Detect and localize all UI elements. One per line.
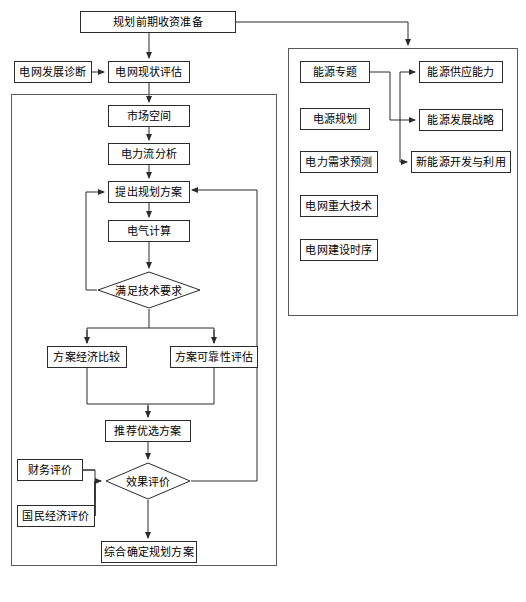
node-econ-compare-label: 方案经济比较 (53, 352, 120, 363)
node-energy-development-strategy[interactable]: 能源发展战略 (419, 109, 503, 131)
node-market-space[interactable]: 市场空间 (108, 105, 190, 127)
node-diagnosis-label: 电网发展诊断 (19, 67, 86, 78)
node-dev-strategy-label: 能源发展战略 (427, 115, 494, 126)
node-economic-comparison[interactable]: 方案经济比较 (47, 346, 127, 368)
node-major-grid-technology[interactable]: 电网重大技术 (300, 195, 378, 217)
node-new-energy-development[interactable]: 新能源开发与利用 (411, 151, 511, 173)
node-demand-forecast-label: 电力需求预测 (305, 157, 372, 168)
node-financial-label: 财务评价 (28, 465, 73, 476)
node-final-plan-label: 综合确定规划方案 (104, 547, 194, 558)
node-grid-development-diagnosis[interactable]: 电网发展诊断 (14, 61, 92, 83)
edge-prep-to-right-panel (236, 22, 408, 45)
node-new-energy-label: 新能源开发与利用 (416, 157, 506, 168)
node-prep-label: 规划前期收资准备 (113, 17, 203, 28)
node-power-source-plan-label: 电源规划 (313, 114, 358, 125)
node-effect-eval-label: 效果评价 (126, 473, 171, 489)
node-demand-forecast[interactable]: 电力需求预测 (300, 151, 378, 173)
node-technical-requirement-check[interactable]: 满足技术要求 (97, 271, 201, 309)
node-national-economic-evaluation[interactable]: 国民经济评价 (17, 505, 95, 527)
node-power-flow-analysis[interactable]: 电力流分析 (108, 143, 190, 165)
flowchart-canvas: 规划前期收资准备 电网发展诊断 电网现状评估 市场空间 电力流分析 提出规划方案… (0, 0, 526, 602)
node-electrical-calculation[interactable]: 电气计算 (108, 220, 190, 242)
node-recommended-plan[interactable]: 推荐优选方案 (105, 420, 191, 442)
node-status-eval-label: 电网现状评估 (115, 67, 182, 78)
node-recommend-label: 推荐优选方案 (114, 426, 181, 437)
node-electrical-calc-label: 电气计算 (127, 226, 172, 237)
node-build-schedule-label: 电网建设时序 (305, 245, 372, 256)
node-national-econ-label: 国民经济评价 (22, 511, 89, 522)
node-final-plan[interactable]: 综合确定规划方案 (101, 541, 197, 563)
node-propose-label: 提出规划方案 (115, 187, 182, 198)
node-effect-evaluation-check[interactable]: 效果评价 (105, 462, 191, 500)
node-tech-check-label: 满足技术要求 (115, 282, 182, 298)
node-financial-evaluation[interactable]: 财务评价 (17, 459, 83, 481)
node-grid-status-evaluation[interactable]: 电网现状评估 (108, 61, 190, 83)
node-reliability-evaluation[interactable]: 方案可靠性评估 (170, 346, 258, 368)
node-energy-topic-label: 能源专题 (313, 67, 358, 78)
node-energy-supply-capacity[interactable]: 能源供应能力 (419, 61, 503, 83)
right-panel-container (288, 48, 518, 316)
node-grid-build-schedule[interactable]: 电网建设时序 (300, 239, 378, 261)
node-major-tech-label: 电网重大技术 (305, 201, 372, 212)
node-prep[interactable]: 规划前期收资准备 (80, 11, 236, 33)
node-reliability-label: 方案可靠性评估 (175, 352, 253, 363)
node-power-flow-label: 电力流分析 (121, 149, 177, 160)
node-power-source-planning[interactable]: 电源规划 (300, 108, 370, 130)
node-propose-plan[interactable]: 提出规划方案 (108, 181, 190, 203)
node-supply-capacity-label: 能源供应能力 (427, 67, 494, 78)
node-market-label: 市场空间 (127, 111, 172, 122)
node-energy-topic[interactable]: 能源专题 (300, 61, 370, 83)
